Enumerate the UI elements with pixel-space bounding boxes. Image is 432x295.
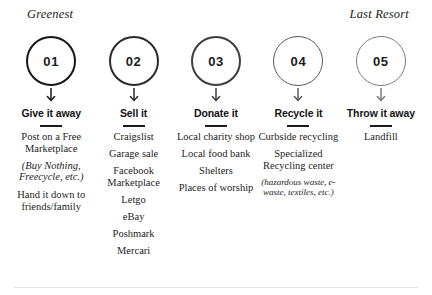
step-badge-wrapper: 04	[273, 36, 323, 86]
step-item: Post on a Free Marketplace	[10, 131, 92, 155]
step-number-label: 01	[43, 54, 59, 69]
step-item: Places of worship	[179, 182, 254, 194]
step-item: Facebook Marketplace	[92, 165, 174, 189]
step-item-list: Post on a Free Marketplace(Buy Nothing, …	[10, 131, 92, 218]
step-item: Craigslist	[113, 131, 153, 143]
step-item-list: Curbside recyclingSpecialized Recycling …	[257, 131, 339, 204]
step-item: Garage sale	[109, 148, 158, 160]
step-number-label: 02	[126, 54, 142, 69]
step-item: Local food bank	[182, 148, 251, 160]
step-title-underline	[123, 125, 145, 127]
step-item-list: CraigslistGarage saleFacebook Marketplac…	[92, 131, 174, 262]
step-number-label: 05	[373, 54, 389, 69]
step-title-underline	[370, 125, 392, 127]
step-item-list: Local charity shopLocal food bankShelter…	[175, 131, 257, 199]
step-item: eBay	[123, 211, 145, 223]
step-item: Shelters	[199, 165, 233, 177]
step-number-circle: 05	[356, 36, 406, 86]
step-item: Specialized Recycling center	[257, 148, 339, 172]
step-badge-wrapper: 03	[191, 36, 241, 86]
step-number-circle: 03	[191, 36, 241, 86]
step-item: Mercari	[117, 245, 150, 257]
step-title: Donate it	[194, 107, 238, 120]
step-badge-wrapper: 02	[109, 36, 159, 86]
waste-hierarchy-infographic: Greenest Last Resort 01Give it awayPost …	[0, 0, 432, 295]
step-title: Recycle it	[274, 107, 322, 120]
step-number-circle: 02	[109, 36, 159, 86]
step-item: (Buy Nothing, Freecycle, etc.)	[10, 160, 92, 183]
step-item: Poshmark	[113, 228, 155, 240]
step-number-circle: 04	[273, 36, 323, 86]
step-item-list: Landfill	[340, 131, 422, 148]
step-badge-wrapper: 05	[356, 36, 406, 86]
down-arrow-icon	[209, 88, 223, 104]
step-title-underline	[205, 125, 227, 127]
scale-label-last-resort: Last Resort	[350, 7, 410, 22]
step-title: Sell it	[120, 107, 147, 120]
step-number-label: 04	[291, 54, 307, 69]
step-column-02: 02Sell itCraigslistGarage saleFacebook M…	[92, 36, 174, 262]
step-item: Landfill	[364, 131, 398, 143]
step-column-05: 05Throw it awayLandfill	[340, 36, 422, 148]
step-title: Give it away	[21, 107, 81, 120]
scale-label-greenest: Greenest	[27, 7, 73, 22]
step-column-04: 04Recycle itCurbside recyclingSpecialize…	[257, 36, 339, 204]
footer-divider	[14, 287, 418, 288]
step-item: Curbside recycling	[259, 131, 339, 143]
step-item: (hazardous waste, e-waste, textiles, etc…	[257, 177, 339, 198]
step-title: Throw it away	[347, 107, 415, 120]
step-column-03: 03Donate itLocal charity shopLocal food …	[175, 36, 257, 199]
down-arrow-icon	[127, 88, 141, 104]
step-column-01: 01Give it awayPost on a Free Marketplace…	[10, 36, 92, 218]
step-title-underline	[40, 125, 62, 127]
step-item: Local charity shop	[177, 131, 255, 143]
step-number-label: 03	[208, 54, 224, 69]
step-number-circle: 01	[26, 36, 76, 86]
step-item: Hand it down to friends/family	[10, 189, 92, 213]
down-arrow-icon	[44, 88, 58, 104]
step-title-underline	[287, 125, 309, 127]
step-badge-wrapper: 01	[26, 36, 76, 86]
step-item: Letgo	[121, 194, 146, 206]
down-arrow-icon	[291, 88, 305, 104]
down-arrow-icon	[374, 88, 388, 104]
step-columns: 01Give it awayPost on a Free Marketplace…	[0, 36, 432, 262]
